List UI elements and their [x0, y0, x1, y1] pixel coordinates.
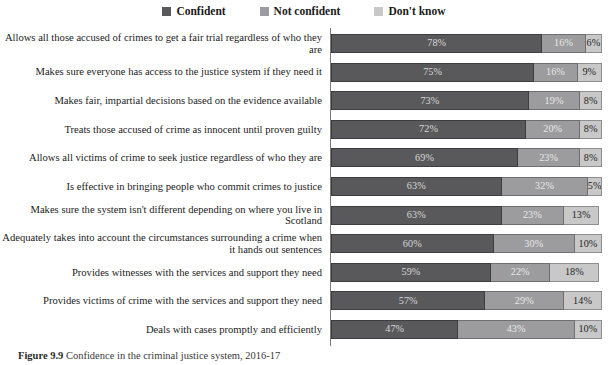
category-label: Makes sure the system isn't different de… [0, 204, 326, 227]
bar-segment-not-confident: 23% [518, 148, 580, 167]
bar-segment-not-confident: 29% [485, 291, 564, 310]
bar-segment-confident: 78% [331, 34, 542, 53]
bar-segment-don-t-know: 8% [580, 91, 602, 110]
bar-segment-don-t-know: 14% [564, 291, 602, 310]
category-label: Allows all those accused of crimes to ge… [0, 32, 326, 55]
stacked-bar: 69%23%8% [331, 148, 602, 167]
bar-segment-don-t-know: 8% [580, 120, 602, 139]
stacked-bar: 59%22%18% [331, 263, 602, 282]
chart-plot-area: Allows all those accused of crimes to ge… [0, 28, 608, 346]
figure-caption-text: Confidence in the criminal justice syste… [66, 350, 280, 361]
bar-segment-confident: 69% [331, 148, 518, 167]
bar-segment-confident: 47% [331, 320, 458, 339]
bar-segment-don-t-know: 18% [550, 263, 599, 282]
bar-segment-not-confident: 30% [494, 234, 575, 253]
figure-caption: Figure 9.9 Confidence in the criminal ju… [18, 350, 578, 361]
category-label: Adequately takes into account the circum… [0, 232, 326, 255]
figure-container: ConfidentNot confidentDon't know Allows … [0, 0, 608, 365]
bar-segment-not-confident: 20% [526, 120, 580, 139]
bar-segment-confident: 63% [331, 177, 502, 196]
bar-segment-don-t-know: 10% [575, 234, 602, 253]
category-label: Provides victims of crime with the servi… [0, 295, 326, 307]
legend-swatch-icon [260, 7, 269, 16]
stacked-bar: 47%43%10% [331, 320, 602, 339]
category-label: Treats those accused of crime as innocen… [0, 124, 326, 136]
bar-segment-confident: 75% [331, 63, 534, 82]
stacked-bar: 73%19%8% [331, 91, 602, 110]
legend-swatch-icon [374, 7, 383, 16]
bar-segment-not-confident: 16% [534, 63, 577, 82]
bar-segment-not-confident: 22% [491, 263, 551, 282]
category-label: Is effective in bringing people who comm… [0, 181, 326, 193]
bar-segment-don-t-know: 9% [578, 63, 602, 82]
stacked-bar: 72%20%8% [331, 120, 602, 139]
bar-segment-confident: 73% [331, 91, 529, 110]
legend-item-label: Not confident [274, 6, 341, 18]
category-label: Provides witnesses with the services and… [0, 267, 326, 279]
category-label: Makes sure everyone has access to the ju… [0, 66, 326, 78]
bar-segment-don-t-know: 6% [586, 34, 602, 53]
bar-segment-confident: 72% [331, 120, 526, 139]
legend-item-label: Confident [176, 6, 225, 18]
stacked-bar: 60%30%10% [331, 234, 602, 253]
legend-item: Confident [162, 6, 225, 18]
bar-segment-not-confident: 19% [529, 91, 580, 110]
bar-segment-not-confident: 16% [542, 34, 585, 53]
bar-segment-confident: 57% [331, 291, 485, 310]
bar-segment-not-confident: 32% [502, 177, 589, 196]
bar-segment-confident: 59% [331, 263, 491, 282]
bar-segment-not-confident: 23% [502, 206, 564, 225]
figure-caption-number: Figure 9.9 [18, 350, 63, 361]
bar-segment-don-t-know: 10% [575, 320, 602, 339]
category-label: Deals with cases promptly and efficientl… [0, 324, 326, 336]
legend-item-label: Don't know [388, 6, 445, 18]
legend-item: Don't know [374, 6, 445, 18]
bar-segment-confident: 60% [331, 234, 494, 253]
bar-segment-don-t-know: 5% [588, 177, 602, 196]
legend-swatch-icon [162, 7, 171, 16]
stacked-bar: 78%16%6% [331, 34, 602, 53]
legend-item: Not confident [260, 6, 341, 18]
bar-segment-not-confident: 43% [458, 320, 575, 339]
stacked-bar: 75%16%9% [331, 63, 602, 82]
stacked-bar: 63%32%5% [331, 177, 602, 196]
bar-segment-don-t-know: 13% [564, 206, 599, 225]
bar-segment-confident: 63% [331, 206, 502, 225]
bar-segment-don-t-know: 8% [580, 148, 602, 167]
stacked-bar: 57%29%14% [331, 291, 602, 310]
category-label: Makes fair, impartial decisions based on… [0, 95, 326, 107]
chart-legend: ConfidentNot confidentDon't know [0, 6, 608, 18]
stacked-bar: 63%23%13% [331, 206, 602, 225]
category-label: Allows all victims of crime to seek just… [0, 152, 326, 164]
